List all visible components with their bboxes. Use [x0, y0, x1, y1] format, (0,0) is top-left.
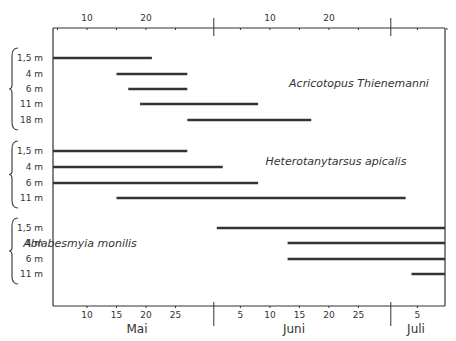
depth-label: 11 m — [20, 193, 43, 203]
depth-label: 4 m — [26, 69, 43, 79]
bottom-tick-label: 25 — [170, 310, 181, 320]
depth-label: 18 m — [20, 115, 43, 125]
bottom-tick-label: 10 — [264, 310, 276, 320]
depth-label: 6 m — [26, 84, 43, 94]
bottom-tick-label: 15 — [294, 310, 305, 320]
bottom-tick-label: 20 — [323, 310, 335, 320]
species-label: Heterotanytarsus apicalis — [266, 155, 407, 168]
depth-label: 1,5 m — [17, 146, 43, 156]
depth-label: 1,5 m — [17, 53, 43, 63]
top-tick-label: 10 — [81, 13, 93, 23]
bottom-tick-label: 5 — [238, 310, 244, 320]
month-label: Juli — [406, 322, 425, 336]
bottom-tick-label: 20 — [140, 310, 152, 320]
depth-label: 11 m — [20, 269, 43, 279]
group-braces — [9, 48, 18, 284]
month-label: Juni — [282, 322, 305, 336]
month-labels: MaiJuniJuli — [126, 322, 424, 336]
depth-label: 6 m — [26, 254, 43, 264]
depth-label: 6 m — [26, 178, 43, 188]
top-tick-label: 20 — [323, 13, 335, 23]
bottom-tick-label: 10 — [81, 310, 93, 320]
bottom-tick-label: 25 — [353, 310, 364, 320]
top-tick-label: 20 — [140, 13, 152, 23]
species-label: Ablabesmyia monilis — [22, 237, 137, 250]
top-tick-label: 10 — [264, 13, 276, 23]
bottom-tick-label: 5 — [415, 310, 421, 320]
axis-ticks — [58, 18, 447, 326]
bottom-tick-label: 15 — [111, 310, 122, 320]
species-label: Acricotopus Thienemanni — [288, 77, 429, 90]
depth-timeline-chart: 10152025510152025510201020 MaiJuniJuli 1… — [0, 0, 456, 341]
month-label: Mai — [126, 322, 147, 336]
depth-label: 1,5 m — [17, 223, 43, 233]
depth-label: 11 m — [20, 99, 43, 109]
depth-label: 4 m — [26, 162, 43, 172]
